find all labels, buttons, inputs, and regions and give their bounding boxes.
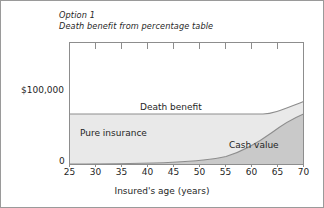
x-tick-label-45: 45 [168,167,179,177]
annotation-pure-insurance: Pure insurance [80,128,147,138]
x-tick-label-30: 30 [90,167,101,177]
chart-figure: Option 1 Death benefit from percentage t… [0,0,324,208]
x-tick-label-70: 70 [298,167,309,177]
x-tick-label-60: 60 [246,167,257,177]
x-tick-label-25: 25 [64,167,75,177]
annotation-death-benefit: Death benefit [140,102,202,112]
x-tick-label-55: 55 [220,167,231,177]
x-tick-label-40: 40 [142,167,153,177]
x-tick-label-35: 35 [116,167,127,177]
x-tick-label-50: 50 [194,167,205,177]
x-tick-label-65: 65 [272,167,283,177]
annotation-cash-value: Cash value [229,140,279,150]
y-axis-value-label: $100,000 [21,85,64,95]
y-axis-zero-label: 0 [59,156,65,166]
x-axis-title: Insured's age (years) [1,186,323,196]
